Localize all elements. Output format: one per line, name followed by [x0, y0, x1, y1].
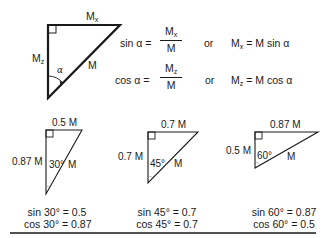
ex60-top-label: 0.87 M: [270, 120, 301, 130]
ex30-caption: sin 30° = 0.5 cos 30° = 0.87: [24, 206, 90, 230]
ex30-angle-label: 30°: [49, 160, 64, 170]
cos-fraction: Mz M: [160, 63, 182, 91]
ex30-hyp-label: M: [68, 160, 76, 170]
label-hypotenuse-m: M: [88, 60, 97, 71]
sin-rhs: Mx = M sin α: [231, 38, 289, 50]
ex45-hyp-label: M: [174, 159, 182, 169]
cos-or: or: [205, 75, 214, 86]
ex60-caption: sin 60° = 0.87 cos 60° = 0.5: [246, 206, 322, 230]
label-mx: Mx: [86, 11, 98, 23]
ex45-left-label: 0.7 M: [118, 152, 143, 162]
label-mz: Mz: [32, 53, 44, 65]
ex45-caption: sin 45° = 0.7 cos 45° = 0.7: [132, 206, 202, 230]
ex45-top-label: 0.7 M: [161, 120, 186, 130]
ex60-left-label: 0.5 M: [226, 146, 251, 156]
main-triangle: [48, 25, 120, 98]
label-alpha: α: [57, 66, 63, 75]
sin-lhs: sin α =: [120, 38, 151, 49]
sin-or: or: [204, 38, 213, 49]
cos-rhs: Mz = M cos α: [231, 75, 292, 87]
ex30-top-label: 0.5 M: [52, 118, 77, 128]
ex60-angle-label: 60°: [257, 151, 272, 161]
cos-lhs: cos α =: [115, 75, 149, 86]
ex45-angle-label: 45°: [150, 159, 165, 169]
ex60-hyp-label: M: [287, 152, 295, 162]
right-angle-marker: [48, 25, 56, 33]
ex30-left-label: 0.87 M: [12, 157, 43, 167]
sin-fraction: Mx M: [160, 26, 182, 54]
